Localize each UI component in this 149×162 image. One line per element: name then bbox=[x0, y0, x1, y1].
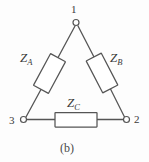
wire-node1-to-za bbox=[58, 26, 76, 59]
impedance-subscript-zc: C bbox=[74, 102, 80, 112]
delta-circuit-drawing bbox=[0, 0, 149, 162]
circuit-figure: 1 3 2 ZA ZB ZC (b) bbox=[0, 0, 149, 162]
impedance-label-zc: ZC bbox=[67, 96, 80, 109]
wire-za-to-node3 bbox=[26, 89, 42, 118]
impedance-label-zb: ZB bbox=[110, 51, 122, 64]
node-label-2: 2 bbox=[134, 114, 140, 125]
impedance-label-za: ZA bbox=[20, 51, 32, 64]
node-label-3: 3 bbox=[9, 115, 15, 126]
impedance-subscript-zb: B bbox=[117, 57, 122, 67]
terminal-node-2 bbox=[124, 117, 130, 123]
terminal-node-1 bbox=[73, 20, 79, 26]
node-label-1: 1 bbox=[71, 4, 77, 15]
wire-zb-to-node2 bbox=[110, 88, 125, 117]
wire-node1-to-zb bbox=[78, 26, 95, 58]
figure-caption: (b) bbox=[60, 142, 74, 154]
impedance-subscript-za: A bbox=[27, 57, 32, 67]
terminal-node-3 bbox=[21, 117, 27, 123]
impedance-box-za bbox=[33, 54, 65, 94]
impedance-box-zc bbox=[55, 113, 97, 128]
